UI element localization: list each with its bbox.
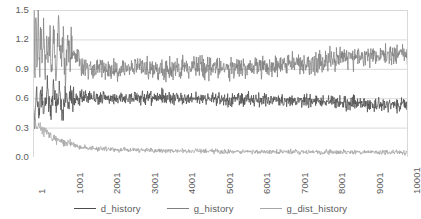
y-axis-tick-label: 0.3	[3, 123, 29, 133]
y-axis-tick-label: 1.5	[3, 5, 29, 15]
x-axis-tick-label: 5001	[225, 172, 235, 194]
x-axis-tick-label: 4001	[187, 172, 197, 194]
x-axis-tick-label: 1001	[75, 172, 85, 194]
legend-line-swatch	[167, 208, 189, 209]
legend-line-swatch	[74, 208, 96, 209]
legend-item-label: g_dist_history	[287, 203, 348, 214]
legend-item-label: g_history	[194, 203, 234, 214]
plot-area	[33, 10, 408, 157]
y-axis-tick-label: 0.0	[3, 152, 29, 162]
x-axis-tick-label: 2001	[112, 172, 122, 194]
plot-svg	[33, 10, 408, 157]
x-axis-tick-label: 6001	[262, 172, 272, 194]
x-axis-tick-label: 8001	[337, 172, 347, 194]
x-axis-tick-label: 9001	[375, 172, 385, 194]
plot-border	[34, 10, 408, 157]
x-axis-tick-label: 10001	[412, 167, 421, 194]
series-group	[33, 10, 408, 156]
legend-item-g-history[interactable]: g_history	[167, 203, 234, 214]
y-axis: 0.00.30.60.91.21.5	[0, 0, 29, 167]
gridlines	[33, 11, 408, 158]
x-axis-tick-label: 1	[37, 189, 47, 194]
y-axis-tick-label: 0.9	[3, 64, 29, 74]
x-axis: 1100120013001400150016001700180019001100…	[33, 158, 408, 196]
legend-line-swatch	[260, 208, 282, 209]
series-line-g-dist-history	[33, 119, 408, 156]
chart-container: 0.00.30.60.91.21.5 110012001300140015001…	[0, 0, 421, 219]
chart-legend: d_historyg_historyg_dist_history	[0, 199, 421, 217]
series-line-d-history	[33, 75, 408, 128]
legend-item-g-dist-history[interactable]: g_dist_history	[260, 203, 348, 214]
legend-item-d-history[interactable]: d_history	[74, 203, 141, 214]
legend-item-label: d_history	[101, 203, 141, 214]
y-axis-tick-label: 1.2	[3, 34, 29, 44]
x-axis-tick-label: 7001	[300, 172, 310, 194]
y-axis-tick-label: 0.6	[3, 93, 29, 103]
x-axis-tick-label: 3001	[150, 172, 160, 194]
